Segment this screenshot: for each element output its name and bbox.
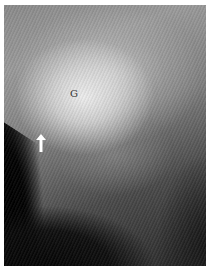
region-label-g: G: [70, 88, 78, 99]
scan-texture: [4, 5, 206, 266]
arrow-up-icon: [36, 134, 46, 152]
radiograph-image: [4, 5, 206, 266]
